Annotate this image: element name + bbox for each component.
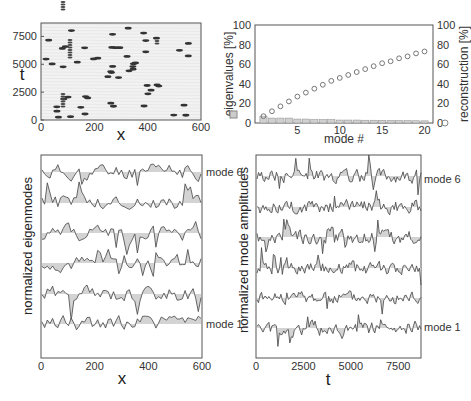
mode-6-label: mode 6 [424,173,461,185]
amplitudes-axis-label: normalized mode amplitudes [236,166,251,333]
reconstruction-point [346,73,351,78]
reconstruction-point [414,51,419,56]
reconstruction-point [422,49,427,54]
eigenvalue-bar [311,120,318,123]
t-tick: 0 [31,114,37,126]
x-tick: 600 [193,360,211,372]
eig-tick: 60 [239,58,251,70]
mode-curve [42,285,201,321]
eigenvalue-bar [345,120,352,123]
reconstruction-point [287,99,292,104]
x-tick: 600 [192,121,210,133]
mode-curve [257,191,421,215]
eigenvalue-bar [277,118,284,123]
rec-tick: 20 [437,97,449,109]
reconstruction-point [397,56,402,61]
t-axis-label: t [20,65,25,84]
t-tick: 2500 [13,86,37,98]
mode-tick: 15 [376,124,388,136]
mode-curve [257,155,421,195]
mode-1-label: mode 1 [424,321,461,333]
rec-tick: 60 [437,58,449,70]
eigenvalue-bar [285,118,292,123]
reconstruction-point [388,59,393,64]
eig-tick: 40 [239,78,251,90]
eigenvalue-bar [421,121,428,123]
reconstruction-point [295,94,300,99]
t-tick: 5000 [13,58,37,70]
x-tick: 400 [139,360,157,372]
mode-tick: 5 [294,124,300,136]
reconstruction-point [312,86,317,91]
eigenmodes-panel: 0200400600 x normalized eigenmodes mode … [20,155,243,388]
eig-tick: 100 [233,19,251,31]
rec-tick: 100 [437,19,455,31]
t-axis-label: t [326,370,331,389]
reconstruction-point [363,67,368,72]
mode-tick: 20 [418,124,430,136]
eigenmodes-axis-label: normalized eigenmodes [20,176,35,315]
spacetime-panel: 02004006000250050007500 x t [13,1,211,144]
eigenvalue-bar [353,120,360,123]
eigenvalue-bar [302,119,309,123]
eigenvalue-bar [328,120,335,123]
x-tick: 200 [85,360,103,372]
spectrum-panel: 5101520002020404060608080100100 mode # e… [222,19,471,146]
t-tick: 7500 [13,30,37,42]
reconstruction-point [303,90,308,95]
reconstruction-point [354,70,359,75]
eigenvalue-bar [268,118,275,123]
reconstruction-point [278,104,283,109]
reconstruction-point [371,64,376,69]
mode-curve [257,291,421,314]
eigenvalue-bar [336,120,343,123]
eigenvalue-bar [379,120,386,123]
eig-tick: 80 [239,39,251,51]
eigenvalue-bar [404,121,411,123]
eigenvalue-bar [412,121,419,123]
rec-tick: 80 [437,39,449,51]
x-tick: 0 [38,121,44,133]
reconstruction-point [380,61,385,66]
x-tick: 400 [138,121,156,133]
x-tick: 0 [38,360,44,372]
eig-tick: 0 [245,117,251,129]
eigenvalue-bar [387,120,394,123]
eigenvalue-bar [362,120,369,123]
mode-axis-label: mode # [324,132,364,146]
eigenvalues-axis-label: eigenvalues [%] [222,32,236,117]
eig-tick: 20 [239,97,251,109]
reconstruction-point [405,54,410,59]
t-tick: 2500 [291,360,315,372]
eigenvalue-bar [294,119,301,123]
eigenvalue-bar [370,120,377,123]
x-axis-label: x [118,369,127,388]
figure: 02004006000250050007500 x t 510152000202… [0,0,471,401]
eigenvalues-legend-icon [230,111,237,118]
eigenvalue-bar [395,121,402,123]
x-tick: 200 [85,121,103,133]
reconstruction-point [270,109,275,114]
rec-tick: 40 [437,78,449,90]
reconstruction-point [329,78,334,83]
amplitudes-panel: 0250050007500 t normalized mode amplitud… [236,155,461,389]
reconstruction-axis-label: reconstruction [%] [457,26,471,122]
reconstruction-point [337,76,342,81]
t-tick: 0 [253,360,259,372]
t-tick: 5000 [339,360,363,372]
x-axis-label: x [117,125,126,144]
t-tick: 7500 [386,360,410,372]
eigenvalue-bar [319,120,326,123]
reconstruction-point [320,82,325,87]
